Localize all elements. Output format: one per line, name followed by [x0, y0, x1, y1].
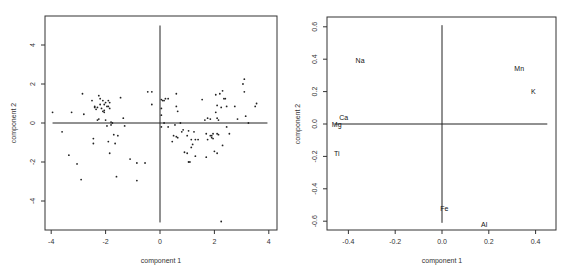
score-point: [228, 133, 230, 135]
x-tick-label: -0.2: [389, 238, 401, 245]
score-point: [220, 221, 222, 223]
score-point: [204, 119, 206, 121]
score-point: [105, 102, 107, 104]
score-point: [184, 151, 186, 153]
score-point: [71, 111, 73, 113]
score-point: [243, 78, 245, 80]
score-point: [216, 152, 218, 154]
score-point: [160, 107, 162, 109]
score-point: [105, 119, 107, 121]
score-point: [175, 106, 177, 108]
y-tick-label: -2: [29, 159, 36, 165]
chart-canvas: -4-2024 -4-2024 component 1 component 2 …: [0, 0, 569, 277]
score-point: [218, 119, 220, 121]
score-point: [173, 135, 175, 137]
score-point: [207, 139, 209, 141]
score-point: [211, 135, 213, 137]
variable-label-na: Na: [356, 57, 365, 64]
left-y-axis: -4-2024: [29, 43, 45, 204]
score-point: [107, 141, 109, 143]
score-point: [113, 134, 115, 136]
score-point: [209, 118, 211, 120]
score-point: [165, 98, 167, 100]
score-point: [82, 93, 84, 95]
variable-label-k: K: [531, 88, 536, 95]
score-point: [97, 107, 99, 109]
score-point: [92, 143, 94, 145]
variable-label-al: Al: [481, 221, 488, 228]
score-point: [83, 113, 85, 115]
right-y-axis-title: component 2: [294, 104, 302, 145]
score-point: [205, 156, 207, 158]
variable-label-ti: Ti: [334, 150, 340, 157]
score-point: [186, 152, 188, 154]
x-tick-label: 4: [267, 238, 271, 245]
score-point: [109, 102, 111, 104]
score-point: [207, 117, 209, 119]
score-point: [52, 111, 54, 113]
score-point: [91, 100, 93, 102]
score-point: [122, 117, 124, 119]
score-point: [103, 111, 105, 113]
x-tick-label: 0.0: [437, 238, 447, 245]
score-point: [129, 158, 131, 160]
score-point: [160, 126, 162, 128]
score-point: [197, 139, 199, 141]
score-point: [222, 90, 224, 92]
score-point: [212, 133, 214, 135]
score-point: [107, 106, 109, 108]
left-y-axis-title: component 2: [10, 103, 18, 144]
score-point: [167, 98, 169, 100]
score-point: [190, 139, 192, 141]
score-point: [177, 110, 179, 112]
loadings-plot: NaMnKCaMgTiFeAl -0.4-0.20.00.20.4 -0.6-0…: [294, 17, 556, 265]
score-point: [124, 125, 126, 127]
score-point: [107, 100, 109, 102]
score-point: [242, 83, 244, 85]
right-x-axis: -0.4-0.20.00.20.4: [342, 230, 540, 245]
score-point: [110, 124, 112, 126]
y-tick-label: 0.2: [311, 87, 318, 97]
score-point: [147, 91, 149, 93]
score-point: [201, 99, 203, 101]
score-point: [163, 100, 165, 102]
variable-label-fe: Fe: [440, 205, 448, 212]
x-tick-label: 2: [212, 238, 216, 245]
score-point: [144, 162, 146, 164]
score-point: [215, 94, 217, 96]
x-tick-label: 0.4: [531, 238, 541, 245]
score-point: [116, 176, 118, 178]
score-point: [226, 106, 228, 108]
scores-scatter-plot: -4-2024 -4-2024 component 1 component 2: [10, 16, 277, 265]
score-point: [214, 150, 216, 152]
score-point: [190, 146, 192, 148]
y-tick-label: 2: [29, 82, 36, 86]
score-point: [109, 152, 111, 154]
right-y-axis: -0.6-0.4-0.20.00.20.40.6: [311, 22, 327, 227]
y-tick-label: 0.0: [311, 119, 318, 129]
y-tick-label: -0.2: [311, 150, 318, 162]
left-x-axis-title: component 1: [141, 257, 182, 265]
x-tick-label: -4: [48, 238, 54, 245]
y-tick-label: 0: [29, 121, 36, 125]
score-point: [171, 141, 173, 143]
score-point: [151, 91, 153, 93]
score-point: [181, 131, 183, 133]
score-point: [80, 179, 82, 181]
x-tick-label: 0.2: [484, 238, 494, 245]
score-point: [212, 138, 214, 140]
score-point: [188, 130, 190, 132]
score-point: [99, 104, 101, 106]
score-point: [160, 114, 162, 116]
score-point: [101, 107, 103, 109]
score-point: [102, 100, 104, 102]
y-tick-label: -0.6: [311, 215, 318, 227]
score-point: [215, 111, 217, 113]
x-tick-label: 0: [158, 238, 162, 245]
score-point: [216, 117, 218, 119]
score-point: [92, 138, 94, 140]
score-point: [219, 93, 221, 95]
score-point: [216, 105, 218, 107]
x-tick-label: -2: [102, 238, 108, 245]
y-tick-label: -0.4: [311, 183, 318, 195]
